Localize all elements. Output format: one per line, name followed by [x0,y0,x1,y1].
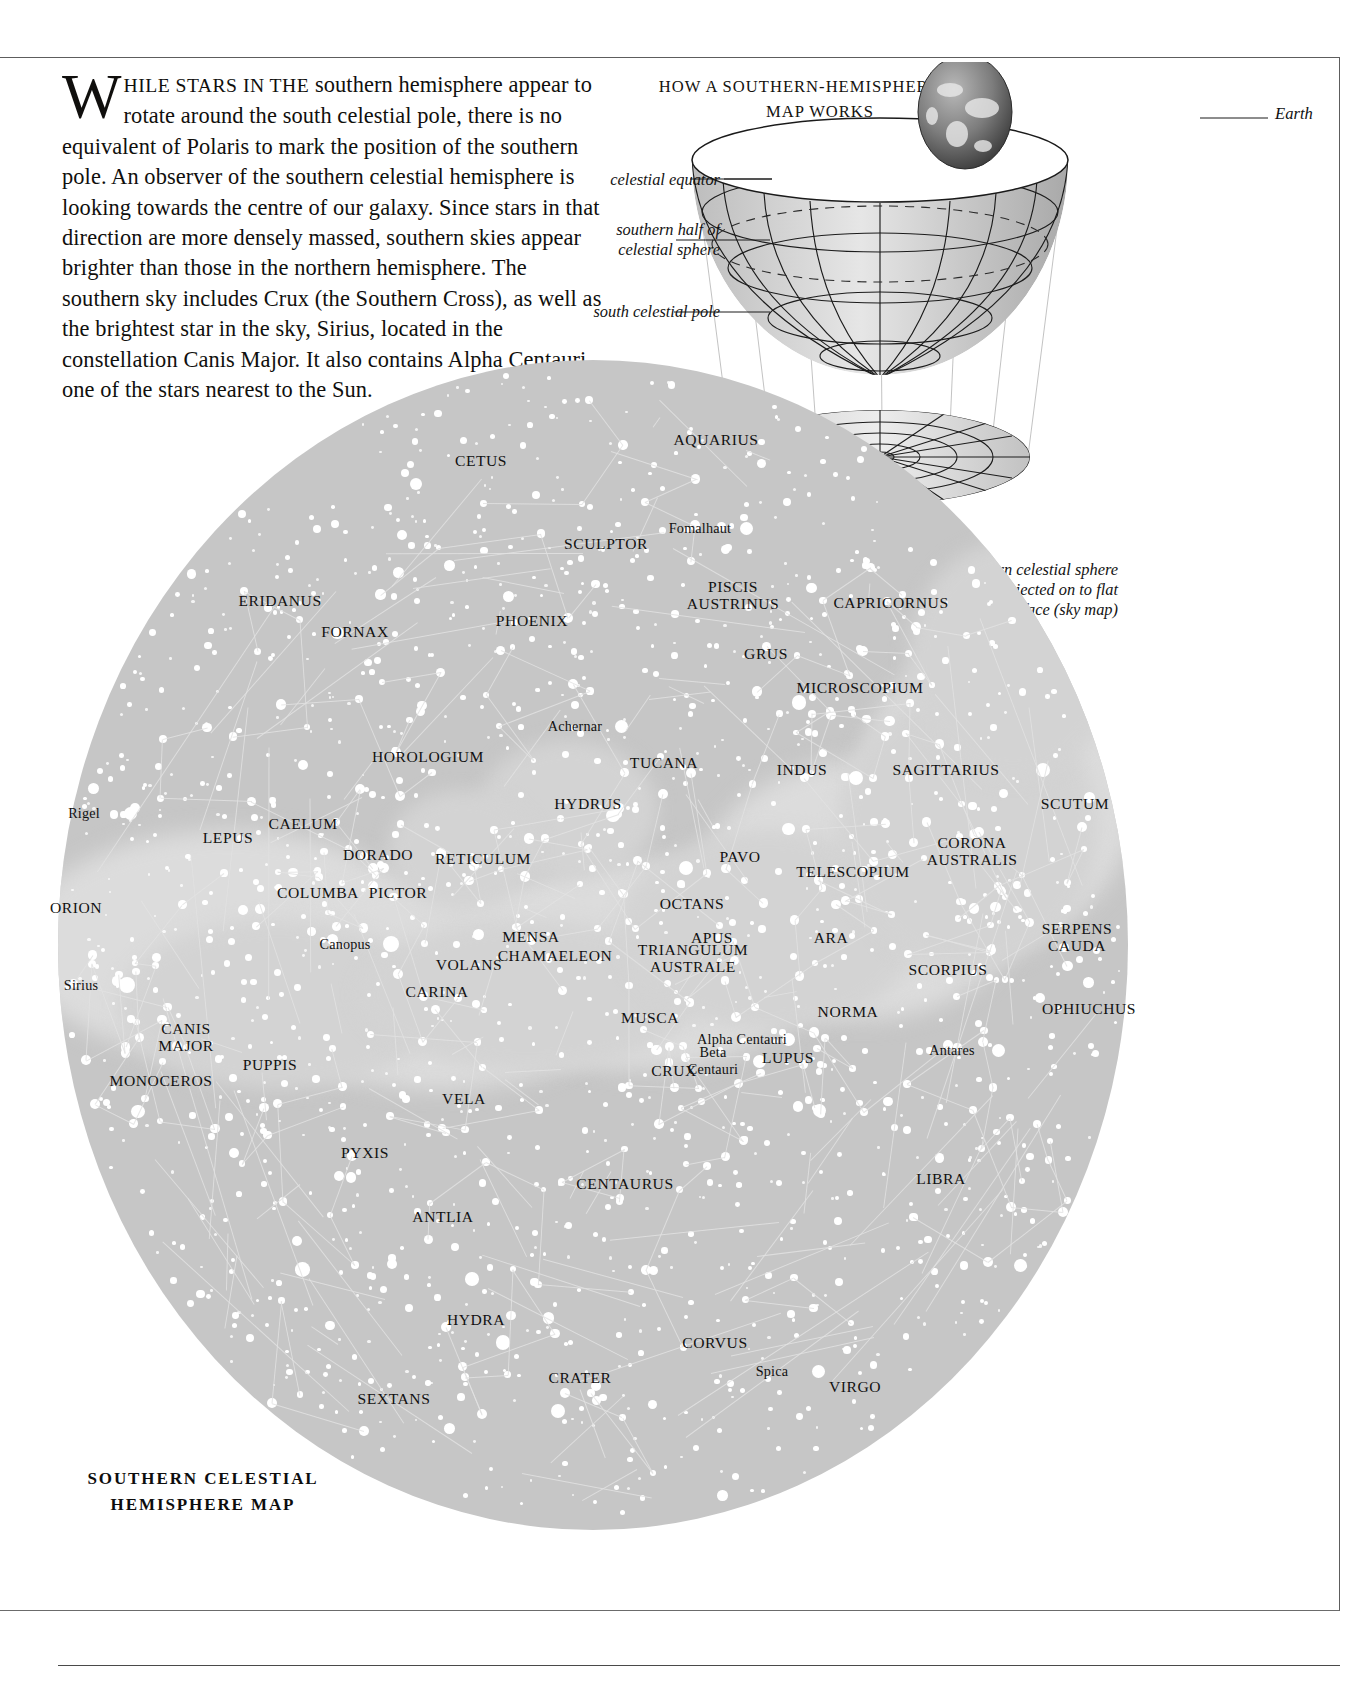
constellation-line [380,548,439,596]
star [331,520,339,528]
star [589,420,592,423]
star [159,809,162,812]
star [607,828,614,835]
star [674,844,677,847]
constellation-line [561,1149,624,1183]
star [520,1502,524,1506]
star [429,1089,432,1092]
star [758,925,765,932]
star [994,1265,997,1268]
constellation-line [653,418,661,428]
star [630,558,635,563]
star [327,771,333,777]
star [847,1190,853,1196]
southern-sky-map[interactable]: AQUARIUSCETUSSCULPTORPISCIS AUSTRINUSCAP… [58,360,1128,1530]
star [414,793,419,798]
star [384,504,392,512]
star [1045,694,1049,698]
star [248,1044,253,1049]
star [921,1096,924,1099]
star [241,997,246,1002]
star [512,702,516,706]
star [330,728,333,731]
star [359,1410,363,1414]
star [477,514,481,518]
star [647,575,653,581]
star [138,655,141,658]
star [924,624,927,627]
star [968,1187,971,1190]
star [452,613,456,617]
star [988,1043,992,1047]
star [85,832,88,835]
star [88,783,99,794]
star [751,1262,754,1265]
star [870,1361,877,1368]
star [69,1032,75,1038]
star [823,1240,828,1245]
constellation-line [271,1301,282,1404]
star [229,627,232,630]
star [487,1333,490,1336]
star [191,600,194,603]
star [793,488,796,491]
star [397,1058,400,1061]
constellation-line [277,1104,283,1202]
star [520,442,526,448]
star [674,998,681,1005]
star [460,695,465,700]
star [1111,980,1115,984]
star [120,765,125,770]
star [710,1023,713,1026]
star [246,1099,250,1103]
star [126,759,129,762]
star [803,1471,806,1474]
star [873,1081,877,1085]
star [64,986,69,991]
star [917,983,923,989]
star [893,636,897,640]
star [754,1152,757,1155]
star [684,1144,689,1149]
star [1073,1052,1076,1055]
star [740,1038,746,1044]
diagram-label-south-celestial-pole: south celestial pole [520,302,720,322]
star [813,1446,818,1451]
star [683,547,687,551]
star [797,1005,800,1008]
star [842,849,845,852]
star [624,1318,626,1320]
star [764,990,767,993]
constellation-line [465,1375,508,1379]
star [187,569,197,579]
star [873,540,876,543]
star [311,704,314,707]
star [934,791,938,795]
star [412,438,418,444]
constellation-line [309,1278,405,1424]
constellation-line [155,1159,264,1288]
constellation-line [307,1345,472,1454]
star [563,641,566,644]
star [468,644,471,647]
star [178,1141,181,1144]
star [344,558,348,562]
star [870,1414,875,1419]
star [961,1300,965,1304]
star [1053,753,1058,758]
star [412,1195,415,1198]
star [451,1224,455,1228]
star [180,1244,186,1250]
star [618,461,622,465]
star [451,1076,456,1081]
star [793,1101,804,1112]
star [212,650,217,655]
star [257,885,264,892]
star [528,1026,531,1029]
star [1016,780,1018,782]
constellation-line [628,986,629,1086]
star [857,456,864,463]
star [507,1152,510,1155]
star [605,589,609,593]
star [1037,667,1043,673]
